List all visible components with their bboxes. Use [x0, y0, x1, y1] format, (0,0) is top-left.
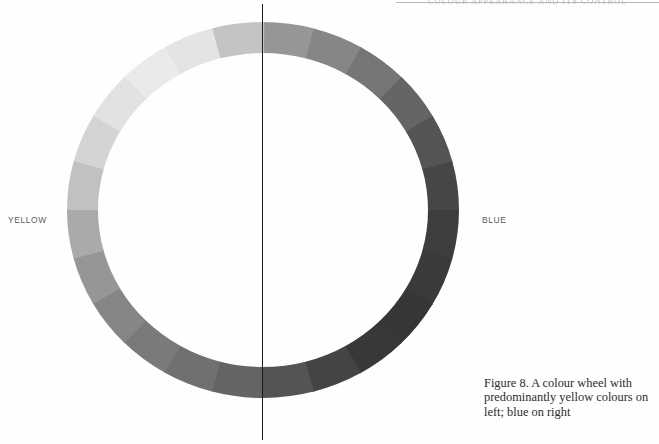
wheel-segment [422, 161, 459, 211]
vertical-divider-line [262, 4, 263, 440]
running-header-text: COLOUR APPEARANCE AND ITS CONTROL [428, 0, 659, 6]
wheel-segment-group [67, 22, 459, 398]
label-blue: BLUE [482, 215, 506, 225]
wheel-segment [67, 209, 104, 259]
wheel-segment [263, 22, 315, 59]
colour-wheel [64, 19, 462, 401]
caption-line-2: predominantly yellow colours on [484, 390, 656, 404]
wheel-segment [212, 22, 264, 58]
figure-caption: Figure 8. A colour wheel with predominan… [484, 376, 656, 419]
running-header: COLOUR APPEARANCE AND ITS CONTROL [0, 0, 659, 14]
colour-wheel-svg [64, 19, 462, 401]
label-yellow: YELLOW [8, 215, 47, 225]
wheel-segment [211, 361, 263, 398]
wheel-segment [262, 362, 314, 398]
caption-line-1: Figure 8. A colour wheel with [484, 376, 656, 390]
caption-line-3: left; blue on right [484, 405, 656, 419]
figure-page: COLOUR APPEARANCE AND ITS CONTROL YELLOW… [0, 0, 659, 444]
